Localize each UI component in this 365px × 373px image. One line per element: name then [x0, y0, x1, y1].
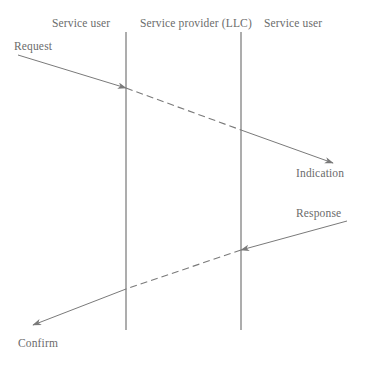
- diagram-canvas: [0, 0, 365, 373]
- message-arrow-confirm: [33, 289, 126, 325]
- message-label-indication: Indication: [296, 167, 344, 180]
- lane-header-service-user-left: Service user: [52, 17, 110, 30]
- message-arrow-indication: [241, 130, 333, 163]
- message-arrow-request: [18, 55, 126, 88]
- lane-header-service-provider: Service provider (LLC): [140, 17, 252, 30]
- sequence-diagram: Service user Service provider (LLC) Serv…: [0, 0, 365, 373]
- message-arrow-response: [241, 221, 347, 250]
- message-label-request: Request: [14, 40, 52, 53]
- message-arrow-response-propagation: [126, 250, 241, 289]
- message-label-confirm: Confirm: [18, 337, 58, 350]
- message-label-response: Response: [296, 207, 341, 220]
- message-arrow-request-propagation: [126, 88, 241, 130]
- lane-header-service-user-right: Service user: [264, 17, 322, 30]
